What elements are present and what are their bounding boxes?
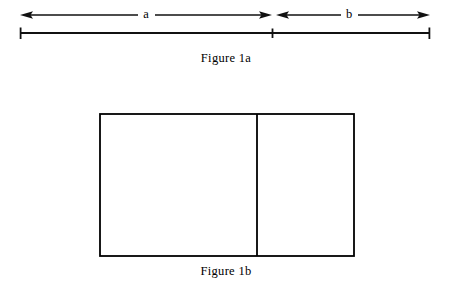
caption-figure-1b: Figure 1b [0, 264, 452, 279]
baseline-with-ticks [20, 28, 430, 40]
figure-drawing [0, 0, 452, 294]
caption-figure-1a: Figure 1a [0, 51, 452, 66]
rectangle-outline [100, 114, 354, 256]
figure-container: a b Figure 1a Figure 1b [0, 0, 452, 294]
segment-label-b: b [329, 8, 369, 21]
figure-1b-group [100, 114, 354, 256]
segment-label-a: a [126, 8, 166, 21]
